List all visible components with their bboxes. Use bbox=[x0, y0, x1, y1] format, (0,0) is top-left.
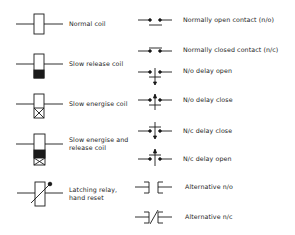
slow-energise-coil-label: Slow energise coil bbox=[69, 100, 127, 108]
slow-energise-coil-symbol bbox=[16, 94, 63, 118]
nc-delay-open-symbol bbox=[138, 149, 172, 166]
normal-coil-symbol bbox=[16, 14, 63, 34]
alt-nc-label: Alternative n/c bbox=[185, 213, 233, 221]
latching-relay-label-2: hand reset bbox=[69, 194, 104, 202]
nc-contact-symbol bbox=[138, 48, 172, 52]
no-delay-close-symbol bbox=[138, 94, 172, 110]
nc-delay-open-label: N/c delay open bbox=[183, 155, 232, 163]
slow-energise-release-coil-label-2: release coil bbox=[69, 144, 106, 152]
slow-release-coil-symbol bbox=[16, 54, 63, 78]
no-contact-symbol bbox=[138, 19, 172, 25]
latching-relay-label-1: Latching relay, bbox=[69, 186, 117, 194]
nc-delay-close-symbol bbox=[138, 122, 172, 139]
slow-energise-release-coil-symbol bbox=[16, 134, 63, 165]
nc-contact-label: Normally closed contact (n/c) bbox=[183, 46, 278, 54]
latching-relay-symbol bbox=[17, 182, 63, 206]
relay-symbols-diagram bbox=[0, 0, 295, 235]
slow-release-coil-label: Slow release coil bbox=[69, 60, 123, 68]
normal-coil-label: Normal coil bbox=[69, 20, 106, 28]
no-delay-open-symbol bbox=[138, 68, 172, 85]
no-delay-close-label: N/o delay close bbox=[183, 96, 233, 104]
nc-delay-close-label: N/c delay close bbox=[183, 127, 232, 135]
alt-no-label: Alternative n/o bbox=[185, 183, 233, 191]
alt-nc-symbol bbox=[135, 210, 172, 224]
no-delay-open-label: N/o delay open bbox=[183, 67, 232, 75]
no-contact-label: Normally open contact (n/o) bbox=[183, 16, 274, 24]
slow-energise-release-coil-label-1: Slow energise and bbox=[69, 136, 128, 144]
alt-no-symbol bbox=[135, 182, 172, 193]
